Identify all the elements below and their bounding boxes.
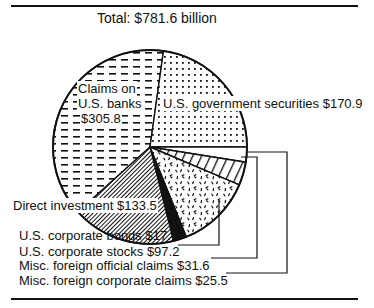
label-corporate-bonds: U.S. corporate bonds $17.4 xyxy=(19,228,178,243)
label-corporate-stocks: U.S. corporate stocks $97.2 xyxy=(19,244,179,259)
chart-title: Total: $781.6 billion xyxy=(97,11,217,26)
label-direct-investment: Direct investment $133.5 xyxy=(12,198,158,213)
label-corporate-claims: Misc. foreign corporate claims $25.5 xyxy=(19,273,228,288)
label-banks-line2: U.S. banks xyxy=(77,96,143,111)
label-banks-line3: $305.8 xyxy=(80,111,122,126)
pie-slices xyxy=(53,50,247,244)
label-official-claims: Misc. foreign official claims $31.6 xyxy=(19,258,210,273)
label-gov-securities: U.S. government securities $170.9 xyxy=(162,96,363,111)
label-banks-line1: Claims on xyxy=(77,81,137,96)
